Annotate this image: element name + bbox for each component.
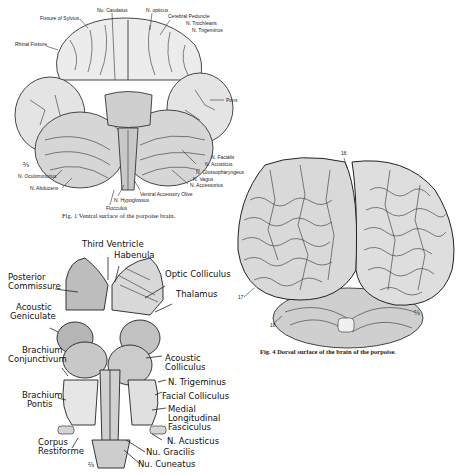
label-n-abducens: N. Abducens <box>30 186 58 191</box>
label-facial-colliculus: Facial Colliculus <box>162 392 229 400</box>
label-corpus-restiforme-2: Restiforme <box>38 447 84 455</box>
label-n-oculomotorius: N. Oculomotorius <box>18 174 57 179</box>
label-n-acusticus: N. Acusticus <box>205 162 233 167</box>
label-brachium-conjunctivum-2: Conjunctivum <box>8 355 67 363</box>
label-acoustic-geniculate-1: Acoustic <box>16 303 52 311</box>
label-n-acusticus: N. Acusticus <box>167 437 219 445</box>
label-16: 16 <box>341 151 347 156</box>
label-habenula: Habenula <box>114 251 155 259</box>
label-acoustic-colliculus-1: Acoustic <box>165 354 201 362</box>
label-third-ventricle: Third Ventricle <box>82 240 144 248</box>
label-n-hypoglossus: N. Hypoglossus <box>114 198 149 203</box>
scale-mark: ⅔ <box>414 310 420 315</box>
label-brachium-conjunctivum-1: Brachium <box>22 346 63 354</box>
label-brachium-pontis-1: Brachium <box>22 391 63 399</box>
label-rhinal-fissure: Rhinal Fissure <box>15 42 47 47</box>
label-medial-longitudinal-1: Medial <box>168 405 196 413</box>
label-n-trigeminus: N. Trigeminus <box>168 378 226 386</box>
label-17: 17 <box>238 295 244 300</box>
figure-4-caption: Fig. 4 Dorsal surface of the brain of th… <box>260 348 396 355</box>
label-nu-caudatus: Nu. Caudatus <box>97 8 128 13</box>
figure-brainstem: Third Ventricle Habenula Posterior Commi… <box>0 240 230 475</box>
label-n-trochlearis: N. Trochlearis <box>186 21 217 26</box>
label-acoustic-geniculate-2: Geniculate <box>10 312 56 320</box>
label-flocculus: Flocculus <box>106 206 127 211</box>
figure-ventral-surface: Fissure of Sylvius Nu. Caudatus N. optic… <box>0 0 235 225</box>
label-acoustic-colliculus-2: Colliculus <box>165 363 205 371</box>
label-nu-gracilis: Nu. Gracilis <box>146 448 195 456</box>
label-n-trigeminus: N. Trigeminus <box>192 28 223 33</box>
label-cerebral-peduncle: Cerebral Peduncle <box>168 14 209 19</box>
label-n-opticus: N. opticus <box>146 8 168 13</box>
label-corpus-restiforme-1: Corpus <box>38 438 68 446</box>
label-pons: Pons <box>226 98 237 103</box>
scale-mark: ⅔ <box>88 462 94 467</box>
label-n-accessorius: N. Accessorius <box>190 183 223 188</box>
label-18: 18 <box>270 323 276 328</box>
dorsal-brain-illustration <box>230 140 467 365</box>
label-posterior-commissure-2: Commissure <box>8 282 61 290</box>
label-medial-longitudinal-2: Longitudinal <box>168 414 220 422</box>
label-medial-longitudinal-3: Fasciculus <box>168 423 211 431</box>
label-optic-colliculus: Optic Colliculus <box>165 270 231 278</box>
label-fissure-of-sylvius: Fissure of Sylvius <box>40 16 79 21</box>
label-posterior-commissure-1: Posterior <box>8 273 46 281</box>
scale-mark: ⅔ <box>23 162 29 167</box>
label-brachium-pontis-2: Pontis <box>27 400 53 408</box>
figure-1-caption: Fig. 1 Ventral surface of the porpoise b… <box>62 212 175 219</box>
ventral-brain-illustration <box>0 0 235 225</box>
label-nu-cuneatus: Nu. Cuneatus <box>138 460 195 468</box>
figure-dorsal-surface: 16 17 18 ⅔ Fig. 4 Dorsal surface of the … <box>230 140 467 365</box>
label-thalamus: Thalamus <box>176 290 217 298</box>
